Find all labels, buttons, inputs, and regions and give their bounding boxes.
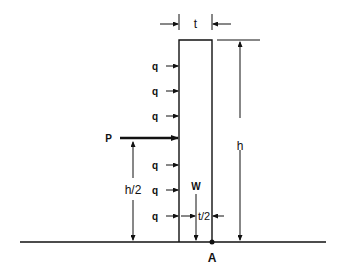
point-load-label: P (105, 133, 112, 144)
half-thickness-label: t/2 (198, 210, 210, 222)
thickness-label: t (194, 17, 198, 31)
svg-text:q: q (152, 185, 158, 196)
thickness-dimension: t (160, 14, 231, 31)
half-height-label: h/2 (125, 183, 142, 197)
q-arrow: q (152, 185, 178, 196)
point-load: P (105, 133, 178, 144)
half-height-dimension: h/2 (125, 142, 142, 240)
wall-load-diagram: t h q q q q q q (0, 0, 345, 276)
svg-text:q: q (152, 86, 158, 97)
half-thickness-dimension: t/2 (181, 210, 224, 222)
pivot-point-dot (210, 240, 215, 245)
pivot-point-label: A (208, 251, 217, 265)
q-arrow: q (152, 86, 178, 97)
weight-load: W (191, 181, 201, 192)
height-label: h (237, 139, 244, 153)
q-arrow: q (152, 61, 178, 72)
svg-text:q: q (152, 111, 158, 122)
height-dimension: h (217, 40, 260, 240)
distributed-load: q q q q q q (152, 61, 178, 222)
q-arrow: q (152, 160, 178, 171)
q-arrow: q (152, 211, 178, 222)
q-arrow: q (152, 111, 178, 122)
weight-label: W (191, 181, 201, 192)
svg-text:q: q (152, 211, 158, 222)
svg-text:q: q (152, 61, 158, 72)
svg-text:q: q (152, 160, 158, 171)
